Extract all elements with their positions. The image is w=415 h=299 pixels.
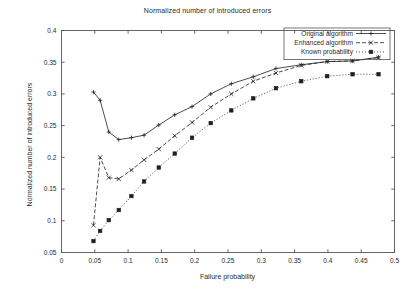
x-tick-label: 0.3: [257, 257, 266, 264]
series-1: [91, 55, 380, 142]
y-tick-label: 0.4: [47, 27, 56, 34]
x-tick-label: 0.5: [390, 257, 399, 264]
x-tick-label: 0.45: [355, 257, 368, 264]
plot-canvas: 00.050.10.150.20.250.30.350.40.450.50.05…: [0, 0, 415, 299]
y-tick-label: 0.15: [44, 185, 57, 192]
data-series: [91, 55, 380, 243]
axes: [62, 31, 395, 253]
x-tick-label: 0.25: [222, 257, 235, 264]
legend-label-3: Known probability: [301, 48, 354, 56]
chart-legend: Original algorithmEnhanced algorithmKnow…: [284, 28, 390, 60]
y-tick-label: 0.1: [47, 217, 56, 224]
x-tick-label: 0.35: [288, 257, 301, 264]
series-3: [92, 73, 380, 243]
x-tick-label: 0.1: [124, 257, 133, 264]
x-tick-label: 0: [60, 257, 64, 264]
legend-label-2: Enhanced algorithm: [294, 39, 353, 47]
series-2: [91, 56, 380, 228]
y-tick-label: 0.2: [47, 154, 56, 161]
axis-ticks: 00.050.10.150.20.250.30.350.40.450.50.05…: [44, 27, 400, 264]
x-tick-label: 0.4: [323, 257, 332, 264]
y-tick-label: 0.25: [44, 122, 57, 129]
x-tick-label: 0.15: [155, 257, 168, 264]
legend-label-1: Original algorithm: [301, 30, 353, 38]
y-tick-label: 0.3: [47, 90, 56, 97]
x-tick-label: 0.05: [88, 257, 101, 264]
chart-figure: Normalized number of introduced errors F…: [0, 0, 415, 299]
y-tick-label: 0.05: [44, 249, 57, 256]
x-tick-label: 0.2: [190, 257, 199, 264]
y-tick-label: 0.35: [44, 59, 57, 66]
